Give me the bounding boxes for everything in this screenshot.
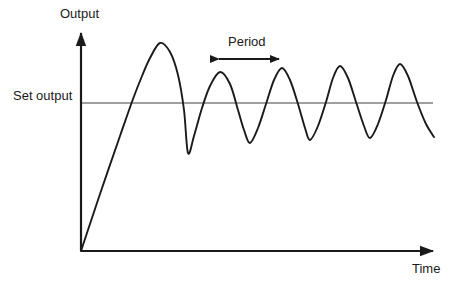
period-label: Period bbox=[228, 35, 266, 48]
oscillation-diagram: Output Set output Period Time bbox=[0, 0, 457, 287]
y-axis-label: Output bbox=[60, 7, 99, 20]
x-axis-label: Time bbox=[412, 262, 440, 275]
output-response-curve bbox=[81, 43, 434, 251]
setpoint-label: Set output bbox=[13, 89, 72, 102]
